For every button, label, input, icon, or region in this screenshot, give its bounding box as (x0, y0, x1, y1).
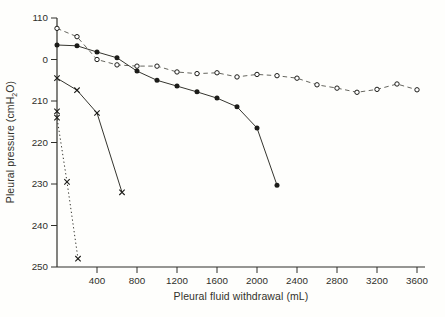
filled-circle-marker (115, 55, 120, 60)
filled-circle-marker (155, 78, 160, 83)
filled-circle-marker (255, 125, 260, 130)
y-tick-label: 0 (43, 54, 49, 65)
x-tick-label: 1600 (206, 275, 228, 286)
filled-circle-marker (95, 50, 100, 55)
y-tick-label: 240 (32, 220, 49, 231)
y-tick-label: 210 (32, 95, 49, 106)
y-axis-title-text-end: O) (4, 81, 16, 93)
y-tick-label: 230 (32, 178, 49, 189)
x-marker (75, 256, 80, 261)
filled-circle-marker (135, 69, 140, 74)
open-circle-marker (115, 63, 119, 67)
open-circle-marker (415, 88, 419, 92)
filled-circle-marker (275, 183, 280, 188)
x-tick-label: 1200 (166, 275, 188, 286)
series-line-steep-decline-x-solid (57, 78, 122, 192)
open-circle-marker (135, 64, 139, 68)
open-circle-marker (75, 34, 79, 38)
series-line-slow-decline-open-circles (57, 28, 417, 92)
open-circle-marker (295, 76, 299, 80)
filled-circle-marker (75, 43, 80, 48)
y-tick-label: 250 (32, 261, 49, 272)
open-circle-marker (95, 57, 99, 61)
open-circle-marker (175, 70, 179, 74)
series-line-very-steep-decline-x-dotted (57, 111, 78, 258)
open-circle-marker (55, 26, 59, 30)
open-circle-marker (375, 87, 379, 91)
open-circle-marker (155, 64, 159, 68)
open-circle-marker (275, 73, 279, 77)
x-tick-label: 2800 (326, 275, 348, 286)
open-circle-marker (395, 82, 399, 86)
x-tick-label: 800 (129, 275, 146, 286)
x-tick-label: 2400 (286, 275, 308, 286)
y-axis-title-text: Pleural pressure (cmH (4, 97, 16, 204)
open-circle-marker (235, 75, 239, 79)
x-marker (119, 190, 124, 195)
filled-circle-marker (55, 42, 60, 47)
open-circle-marker (255, 72, 259, 76)
open-circle-marker (215, 71, 219, 75)
x-tick-label: 2000 (246, 275, 268, 286)
filled-circle-marker (175, 84, 180, 89)
open-circle-marker (315, 83, 319, 87)
open-circle-marker (335, 86, 339, 90)
y-tick-label: 220 (32, 137, 49, 148)
x-axis-title: Pleural fluid withdrawal (mL) (57, 290, 425, 302)
open-circle-marker (195, 71, 199, 75)
y-axis-title: Pleural pressure (cmH2O) (4, 81, 18, 203)
x-tick-label: 400 (89, 275, 106, 286)
x-marker (94, 110, 99, 115)
filled-circle-marker (215, 96, 220, 101)
chart-canvas: 1100210220230240250400800120016002000240… (0, 0, 445, 317)
x-marker (64, 179, 69, 184)
x-tick-label: 3200 (366, 275, 388, 286)
series-line-moderate-decline-filled-circles (57, 45, 277, 185)
pleural-pressure-chart: 1100210220230240250400800120016002000240… (0, 0, 445, 317)
x-marker (74, 88, 79, 93)
x-tick-label: 3600 (406, 275, 428, 286)
y-axis-title-subscript: 2 (11, 93, 18, 97)
y-tick-label: 110 (32, 12, 48, 23)
filled-circle-marker (235, 104, 240, 109)
open-circle-marker (355, 90, 359, 94)
filled-circle-marker (195, 89, 200, 94)
